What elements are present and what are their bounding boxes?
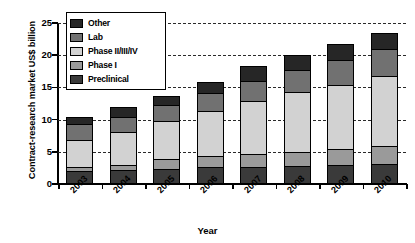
bar-segment-other [241, 67, 266, 81]
bar-segment-phase-i [328, 149, 353, 165]
bar-segment-lab [241, 81, 266, 101]
bar-2009[interactable] [327, 44, 354, 184]
x-tick-mark [58, 184, 60, 189]
bar-segment-other [328, 45, 353, 60]
y-tick-label: 15 [28, 81, 52, 92]
legend-swatch-icon [70, 19, 83, 28]
x-tick-mark [145, 184, 147, 189]
bar-2004[interactable] [110, 107, 137, 184]
y-tick-label: 10 [28, 114, 52, 125]
x-tick-mark [189, 184, 191, 189]
bar-2003[interactable] [66, 117, 93, 184]
bar-2005[interactable] [153, 96, 180, 184]
chart-figure: Contract-research market US$ billion Yea… [0, 0, 415, 243]
y-axis-title: Contract-research market US$ billion [27, 13, 37, 188]
x-tick-mark [406, 184, 408, 189]
y-tick-label: 0 [28, 178, 52, 189]
bar-segment-lab [111, 117, 136, 132]
bar-segment-lab [372, 49, 397, 76]
legend-label: Phase I [88, 60, 117, 70]
bar-segment-phase-ii-iii-iv [241, 101, 266, 154]
legend-swatch-icon [70, 33, 83, 42]
bar-segment-phase-ii-iii-iv [154, 121, 179, 159]
y-tick-mark [52, 87, 58, 89]
bar-segment-lab [67, 124, 92, 140]
bar-2008[interactable] [284, 55, 311, 184]
y-tick-label: 5 [28, 146, 52, 157]
legend-label: Preclinical [88, 74, 129, 84]
legend-item-phase-ii-iii-iv[interactable]: Phase II/III/IV [70, 44, 161, 58]
y-tick-mark [52, 54, 58, 56]
bar-segment-other [285, 56, 310, 70]
bar-segment-phase-i [198, 156, 223, 167]
bar-segment-phase-i [241, 154, 266, 166]
y-tick-mark [52, 151, 58, 153]
bar-segment-other [372, 34, 397, 49]
bar-segment-phase-i [372, 146, 397, 164]
x-axis-title: Year [0, 225, 415, 236]
x-tick-mark [319, 184, 321, 189]
bar-2006[interactable] [197, 82, 224, 184]
bar-segment-phase-ii-iii-iv [198, 111, 223, 156]
y-tick-mark [52, 119, 58, 121]
bar-segment-phase-ii-iii-iv [111, 132, 136, 165]
bar-2007[interactable] [240, 66, 267, 184]
bar-segment-other [154, 97, 179, 105]
bar-segment-lab [285, 70, 310, 92]
legend-swatch-icon [70, 75, 83, 84]
legend-item-other[interactable]: Other [70, 16, 161, 30]
legend-item-phase-i[interactable]: Phase I [70, 58, 161, 72]
x-tick-mark [232, 184, 234, 189]
legend-item-preclinical[interactable]: Preclinical [70, 72, 161, 86]
bar-2010[interactable] [371, 33, 398, 184]
legend-swatch-icon [70, 61, 83, 70]
bar-segment-phase-ii-iii-iv [285, 92, 310, 152]
legend-label: Other [88, 18, 110, 28]
legend-label: Phase II/III/IV [88, 46, 138, 56]
y-tick-label: 25 [28, 17, 52, 28]
legend-label: Lab [88, 32, 103, 42]
legend-item-lab[interactable]: Lab [70, 30, 161, 44]
y-tick-mark [52, 22, 58, 24]
bar-segment-phase-ii-iii-iv [372, 76, 397, 146]
bar-segment-lab [328, 60, 353, 84]
x-tick-mark [276, 184, 278, 189]
bar-segment-other [111, 108, 136, 117]
x-tick-mark [363, 184, 365, 189]
bar-segment-other [198, 83, 223, 93]
chart-legend: OtherLabPhase II/III/IVPhase IPreclinica… [66, 12, 166, 90]
legend-swatch-icon [70, 47, 83, 56]
bar-segment-phase-i [285, 152, 310, 166]
y-tick-label: 20 [28, 49, 52, 60]
bar-segment-lab [154, 105, 179, 121]
x-tick-mark [102, 184, 104, 189]
bar-segment-phase-ii-iii-iv [67, 140, 92, 167]
bar-segment-phase-ii-iii-iv [328, 85, 353, 150]
bar-segment-phase-i [154, 159, 179, 168]
bar-segment-lab [198, 93, 223, 111]
